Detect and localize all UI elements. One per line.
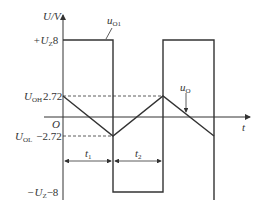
waveform-diagram: U/V t O +UZ8 UOH2.72 UOL−2.72 −UZ−8 uO1 … <box>0 0 262 214</box>
upper-sat-label: +UZ8 <box>33 34 59 48</box>
triangle-wave-uo <box>63 96 214 136</box>
origin-label: O <box>52 118 60 130</box>
uo1-label: uO1 <box>107 14 122 28</box>
y-axis-label: U/V <box>43 10 62 22</box>
lower-sat-label: −UZ−8 <box>27 186 59 200</box>
upper-threshold-label: UOH2.72 <box>24 90 62 104</box>
t-axis-label: t <box>242 121 246 133</box>
uo1-pointer <box>106 28 112 39</box>
t2-label: t2 <box>135 147 142 161</box>
lower-threshold-label: UOL−2.72 <box>15 130 62 144</box>
uo-label: uO <box>180 81 191 95</box>
t1-label: t1 <box>85 147 92 161</box>
square-wave-uo1 <box>63 40 214 200</box>
